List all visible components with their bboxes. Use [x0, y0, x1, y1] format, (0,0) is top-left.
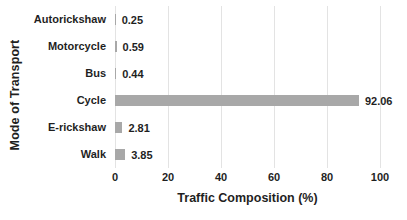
x-axis: 0 20 40 60 80 100	[115, 171, 380, 186]
value-label-e-rickshaw: 2.81	[128, 122, 149, 134]
value-label-motorcycle: 0.59	[123, 41, 144, 53]
bar-row-cycle: 92.06	[115, 87, 380, 114]
bar-bus	[115, 68, 116, 79]
gridline-100	[380, 6, 381, 168]
x-tick-60: 60	[268, 171, 280, 183]
bar-row-autorickshaw: 0.25	[115, 6, 380, 33]
bar-row-e-rickshaw: 2.81	[115, 114, 380, 141]
category-label-e-rickshaw: E-rickshaw	[0, 114, 106, 141]
bar-row-bus: 0.44	[115, 60, 380, 87]
category-axis: Autorickshaw Motorcycle Bus Cycle E-rick…	[0, 6, 106, 168]
bar-walk	[115, 149, 125, 160]
bar-row-motorcycle: 0.59	[115, 33, 380, 60]
bar-rows: 0.25 0.59 0.44 92.06 2.81 3.85	[115, 6, 380, 168]
bar-motorcycle	[115, 41, 117, 52]
bar-e-rickshaw	[115, 122, 122, 133]
category-label-cycle: Cycle	[0, 87, 106, 114]
value-label-bus: 0.44	[122, 68, 143, 80]
value-label-walk: 3.85	[131, 149, 152, 161]
category-label-bus: Bus	[0, 60, 106, 87]
category-label-walk: Walk	[0, 141, 106, 168]
x-tick-20: 20	[162, 171, 174, 183]
x-tick-0: 0	[112, 171, 118, 183]
x-tick-40: 40	[215, 171, 227, 183]
x-axis-title: Traffic Composition (%)	[115, 191, 380, 205]
bar-autorickshaw	[115, 14, 116, 25]
bar-row-walk: 3.85	[115, 141, 380, 168]
value-label-cycle: 92.06	[365, 95, 393, 107]
x-tick-100: 100	[371, 171, 389, 183]
traffic-composition-bar-chart: Mode of Transport Autorickshaw Motorcycl…	[0, 0, 407, 220]
x-tick-80: 80	[321, 171, 333, 183]
bar-cycle	[115, 95, 359, 106]
plot-area: 0.25 0.59 0.44 92.06 2.81 3.85	[115, 6, 380, 168]
value-label-autorickshaw: 0.25	[122, 14, 143, 26]
category-label-motorcycle: Motorcycle	[0, 33, 106, 60]
category-label-autorickshaw: Autorickshaw	[0, 6, 106, 33]
